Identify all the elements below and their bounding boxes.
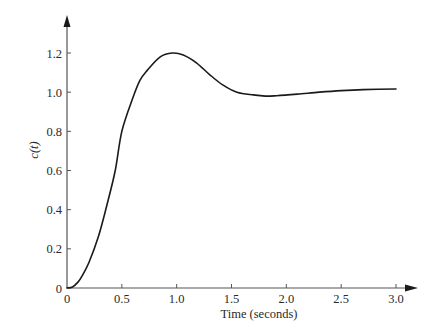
x-axis-arrow-icon	[405, 285, 418, 292]
y-tick-label: 0.4	[46, 203, 62, 217]
y-tick-label: 1.2	[46, 47, 62, 61]
y-tick-label: 0.6	[46, 164, 62, 178]
x-axis-title: Time (seconds)	[221, 307, 298, 321]
response-curve	[67, 53, 396, 288]
y-axis-title: c(t)	[27, 141, 41, 158]
y-axis-arrow-icon	[64, 15, 71, 27]
x-ticks: 00.51.01.52.02.53.0	[64, 284, 404, 306]
x-tick-label: 0	[64, 292, 70, 306]
x-tick-label: 3.0	[388, 292, 404, 306]
x-tick-label: 1.0	[169, 292, 185, 306]
y-tick-label: 0	[56, 282, 62, 296]
x-tick-label: 0.5	[114, 292, 130, 306]
y-tick-label: 0.2	[46, 242, 62, 256]
y-tick-label: 1.0	[46, 86, 62, 100]
x-tick-label: 2.0	[279, 292, 295, 306]
y-tick-label: 0.8	[46, 125, 62, 139]
x-tick-label: 2.5	[333, 292, 349, 306]
step-response-chart: 00.51.01.52.02.53.0 00.20.40.60.81.01.2 …	[0, 0, 441, 334]
x-tick-label: 1.5	[224, 292, 240, 306]
